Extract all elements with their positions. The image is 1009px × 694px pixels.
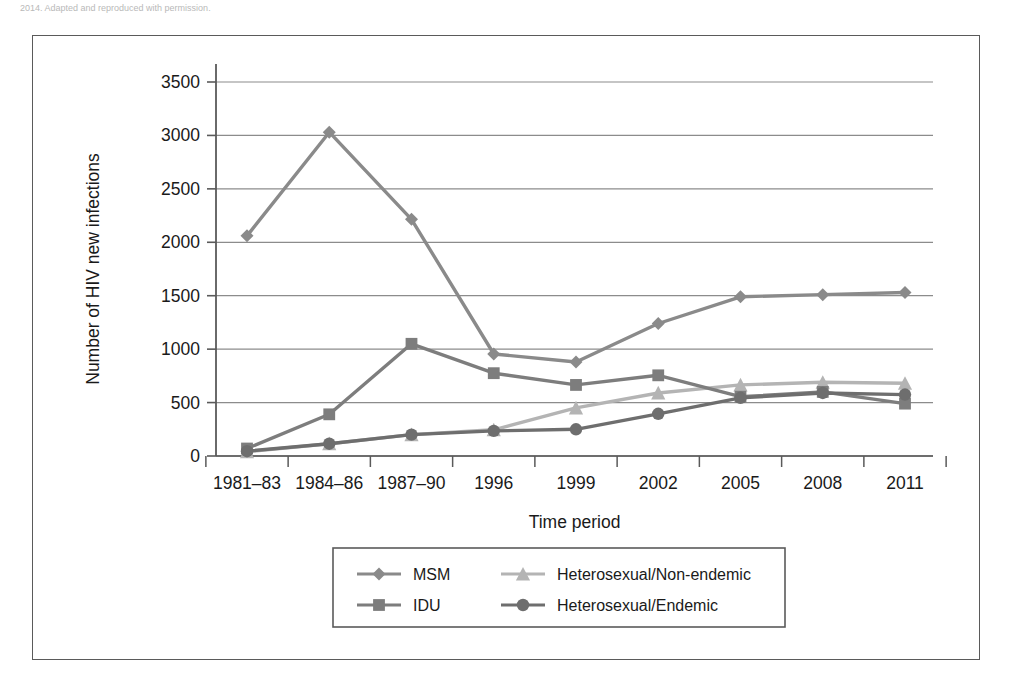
y-tick-label: 3500 xyxy=(161,72,200,92)
series-msm[interactable] xyxy=(241,126,912,369)
series-heterosexual-endemic[interactable] xyxy=(241,387,911,458)
y-tick-label: 2000 xyxy=(161,232,200,252)
y-gridlines: 0500100015002000250030003500 xyxy=(161,72,933,466)
marker-diamond-7 xyxy=(816,288,829,301)
marker-square-legend xyxy=(373,599,385,611)
marker-circle-0 xyxy=(241,445,253,457)
legend-label: Heterosexual/Endemic xyxy=(557,597,718,614)
y-tick-label: 2500 xyxy=(161,179,200,199)
marker-square-3 xyxy=(488,367,500,379)
marker-square-4 xyxy=(570,379,582,391)
legend-label: MSM xyxy=(413,566,450,583)
x-tick-label: 1996 xyxy=(474,473,513,493)
y-tick-label: 1000 xyxy=(161,339,200,359)
marker-circle-5 xyxy=(652,408,664,420)
marker-circle-legend xyxy=(517,599,529,611)
x-axis-title: Time period xyxy=(529,512,621,532)
x-tick-label: 1984–86 xyxy=(295,473,363,493)
marker-circle-2 xyxy=(405,428,417,440)
series-line xyxy=(247,132,905,362)
marker-square-2 xyxy=(406,338,418,350)
marker-circle-7 xyxy=(817,387,829,399)
marker-circle-4 xyxy=(570,423,582,435)
marker-circle-3 xyxy=(488,425,500,437)
y-tick-label: 3000 xyxy=(161,125,200,145)
figure-frame: 05001000150020002500300035001981–831984–… xyxy=(32,35,980,660)
line-chart: 05001000150020002500300035001981–831984–… xyxy=(33,36,981,661)
legend-label: IDU xyxy=(413,597,441,614)
x-tick-label: 1987–90 xyxy=(377,473,445,493)
marker-diamond-8 xyxy=(899,286,912,299)
x-axis: 1981–831984–861987–901996199920022005200… xyxy=(206,456,946,493)
marker-diamond-4 xyxy=(570,355,583,368)
chart-legend: MSMHeterosexual/Non-endemicIDUHeterosexu… xyxy=(333,548,785,627)
x-tick-label: 2002 xyxy=(639,473,678,493)
figure-source-caption: 2014. Adapted and reproduced with permis… xyxy=(0,0,1009,16)
y-axis-title: Number of HIV new infections xyxy=(83,153,103,385)
y-tick-label: 1500 xyxy=(161,286,200,306)
y-tick-label: 500 xyxy=(171,393,200,413)
marker-diamond-6 xyxy=(734,290,747,303)
x-tick-label: 2005 xyxy=(721,473,760,493)
legend-box xyxy=(333,548,785,627)
x-tick-label: 2008 xyxy=(803,473,842,493)
marker-square-1 xyxy=(323,408,335,420)
marker-diamond-5 xyxy=(652,317,665,330)
y-tick-label: 0 xyxy=(190,446,200,466)
legend-label: Heterosexual/Non-endemic xyxy=(557,566,751,583)
series-idu[interactable] xyxy=(241,338,911,455)
plot-area: 05001000150020002500300035001981–831984–… xyxy=(33,36,981,661)
marker-circle-1 xyxy=(323,438,335,450)
x-tick-label: 1981–83 xyxy=(213,473,281,493)
x-tick-label: 2011 xyxy=(886,473,924,493)
marker-circle-6 xyxy=(734,392,746,404)
x-tick-label: 1999 xyxy=(557,473,596,493)
marker-square-5 xyxy=(652,369,664,381)
marker-circle-8 xyxy=(899,388,911,400)
